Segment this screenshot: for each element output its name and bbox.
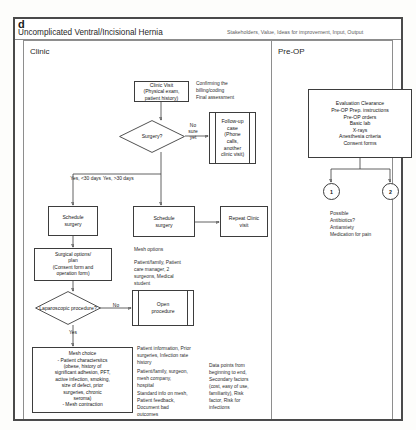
annotation-input-output: Patient information, Prior surgeries, In… bbox=[137, 346, 213, 367]
figure-title: Uncomplicated Ventral/Incisional Hernia bbox=[18, 28, 163, 37]
edge-label-lap-yes: Yes bbox=[59, 330, 87, 336]
lane-label-clinic: Clinic bbox=[30, 47, 50, 56]
annotation-data-points: Data points from beginning to end, Secon… bbox=[209, 363, 269, 412]
node-clinic-visit[interactable]: Clinic Visit (Physical exam, patient his… bbox=[134, 81, 189, 102]
figure-canvas: d Uncomplicated Ventral/Incisional Herni… bbox=[0, 0, 416, 430]
decision-surgery[interactable]: Surgery? bbox=[119, 120, 185, 153]
edge-label-lap-no: No bbox=[103, 303, 129, 309]
node-open-procedure[interactable]: Open procedure bbox=[132, 290, 194, 326]
annotation-clinic-visit-note: Confirming the billing/coding Final asse… bbox=[196, 81, 268, 102]
annotation-mesh-options-heading: Mesh options bbox=[134, 247, 214, 254]
node-surgical-options[interactable]: Surgical options/ plan (Consent form and… bbox=[34, 248, 112, 281]
node-evaluation-clearance[interactable]: Evaluation Clearance Pre-OP Prep. instru… bbox=[308, 89, 412, 158]
node-schedule-surgery-left[interactable]: Schedule surgery bbox=[48, 206, 98, 236]
lane-label-preop: Pre-OP bbox=[278, 47, 305, 56]
node-open-procedure-label: Open procedure bbox=[140, 291, 186, 325]
node-repeat-clinic-visit[interactable]: Repeat Clinic visit bbox=[220, 206, 268, 237]
node-schedule-surgery-right[interactable]: Schedule surgery bbox=[133, 206, 195, 237]
edge-label-yes-gt30: Yes, >30 days bbox=[103, 176, 163, 182]
annotation-mesh-options-stakeholders: Patient/family, Patient care manager, 2 … bbox=[134, 260, 212, 288]
decision-laparoscopic[interactable]: Laparoscopic procedure? bbox=[35, 291, 101, 325]
node-followup-case-label: Follow-up case (Phone calls, another cli… bbox=[217, 113, 248, 163]
open-proc-right-bar bbox=[187, 291, 188, 325]
connector-circle-1[interactable]: 1 bbox=[323, 183, 340, 200]
edge-label-no-sure-yet: No sure yet bbox=[182, 123, 204, 141]
annotation-ideas-improvement: Standard info on mesh, Patient feedback,… bbox=[137, 391, 215, 419]
annotation-medication-note: Possible Antibiotics? Antianxiety Medica… bbox=[330, 211, 410, 239]
open-proc-left-bar bbox=[138, 291, 139, 325]
followup-right-bar bbox=[249, 113, 250, 163]
node-followup-case[interactable]: Follow-up case (Phone calls, another cli… bbox=[209, 112, 256, 164]
figure-frame: d Uncomplicated Ventral/Incisional Herni… bbox=[13, 17, 403, 421]
edge-label-yes-lt30: Yes, <30 days bbox=[45, 176, 101, 182]
figure-title-band: d Uncomplicated Ventral/Incisional Herni… bbox=[15, 19, 401, 40]
figure-legend: Stakeholders, Value, Ideas for improveme… bbox=[227, 29, 363, 35]
connector-circle-2[interactable]: 2 bbox=[382, 183, 399, 200]
node-mesh-choice[interactable]: Mesh choice - Patient charactersitcs (ob… bbox=[32, 347, 133, 413]
followup-left-bar bbox=[215, 113, 216, 163]
annotation-stakeholders-mesh: Patient/family, surgeon, mesh company, h… bbox=[137, 369, 213, 390]
